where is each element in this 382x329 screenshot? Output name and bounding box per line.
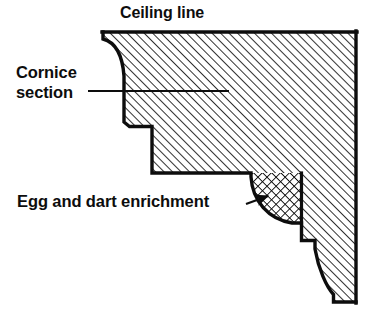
cornice-section-figure: Ceiling line Cornicesection Egg and dart…	[0, 0, 382, 329]
ceiling-line-label: Ceiling line	[120, 5, 204, 22]
section-hatching	[95, 25, 370, 315]
cornice-section-label: Cornicesection	[16, 62, 77, 102]
cornice-section-label-line2: section	[16, 83, 73, 101]
cornice-section-drawing	[0, 0, 382, 329]
egg-and-dart-label: Egg and dart enrichment	[17, 193, 209, 210]
cornice-section-label-line1: Cornice	[16, 63, 77, 81]
